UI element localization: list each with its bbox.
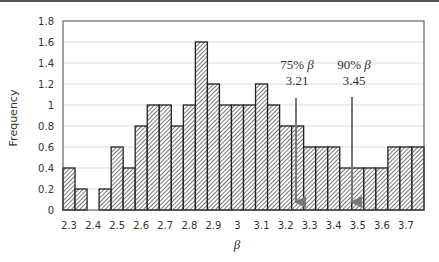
histogram-chart: 00.20.40.60.811.21.41.61.8 2.32.42.52.62…	[0, 0, 439, 262]
x-tick-label: 3.5	[350, 220, 366, 231]
histogram-bar	[244, 105, 256, 210]
histogram-bar	[256, 84, 268, 210]
histogram-bar	[207, 84, 219, 210]
x-tick-label: 3.6	[374, 220, 390, 231]
histogram-bar	[75, 189, 87, 210]
y-tick-label: 0.2	[38, 184, 54, 195]
annotation-75-label: 75%	[280, 57, 307, 72]
histogram-bar	[280, 126, 292, 210]
y-tick-label: 0	[48, 205, 54, 216]
svg-text:90% β: 90% β	[337, 57, 371, 72]
x-axis-ticks: 2.32.42.52.62.72.82.933.13.23.33.43.53.6…	[61, 220, 414, 231]
histogram-bar	[195, 42, 207, 210]
x-tick-label: 3	[234, 220, 240, 231]
histogram-bar	[147, 105, 159, 210]
annotation-75-beta: β	[306, 57, 314, 72]
histogram-bar	[376, 168, 388, 210]
annotation-75-value: 3.21	[286, 73, 309, 88]
histogram-bar	[99, 189, 111, 210]
y-tick-label: 1.4	[38, 58, 54, 69]
histogram-bar	[63, 168, 75, 210]
y-axis-ticks: 00.20.40.60.811.21.41.61.8	[38, 16, 54, 216]
y-tick-label: 1	[48, 100, 54, 111]
histogram-bar	[328, 147, 340, 210]
y-tick-label: 0.6	[38, 142, 54, 153]
histogram-bar	[123, 168, 135, 210]
svg-text:75% β: 75% β	[280, 57, 314, 72]
x-tick-label: 3.4	[326, 220, 342, 231]
y-tick-label: 1.6	[38, 37, 54, 48]
y-tick-label: 1.8	[38, 16, 54, 27]
x-axis-title: β	[233, 237, 241, 252]
histogram-bar	[364, 168, 376, 210]
histogram-bar	[316, 147, 328, 210]
histogram-bar	[159, 105, 171, 210]
histogram-bar	[135, 126, 147, 210]
histogram-bar	[304, 147, 316, 210]
x-tick-label: 3.3	[302, 220, 318, 231]
histogram-bar	[352, 168, 364, 210]
annotation-90-beta: β	[363, 57, 371, 72]
x-tick-label: 3.2	[278, 220, 294, 231]
x-tick-label: 3.7	[398, 220, 414, 231]
y-axis-title: Frequency	[7, 89, 20, 146]
x-tick-label: 2.8	[181, 220, 197, 231]
histogram-bar	[219, 105, 231, 210]
histogram-bar	[183, 105, 195, 210]
histogram-bar	[292, 126, 304, 210]
histogram-bar	[231, 105, 243, 210]
x-tick-label: 2.3	[61, 220, 77, 231]
y-tick-label: 1.2	[38, 79, 54, 90]
annotation-90-value: 3.45	[343, 73, 366, 88]
x-tick-label: 2.4	[85, 220, 101, 231]
x-tick-label: 2.5	[109, 220, 125, 231]
x-tick-label: 3.1	[254, 220, 270, 231]
histogram-bar	[111, 147, 123, 210]
x-tick-label: 2.9	[205, 220, 221, 231]
histogram-bar	[268, 105, 280, 210]
histogram-bar	[388, 147, 400, 210]
histogram-bar	[400, 147, 412, 210]
annotation-90-label: 90%	[337, 57, 364, 72]
y-tick-label: 0.8	[38, 121, 54, 132]
y-tick-label: 0.4	[38, 163, 54, 174]
x-tick-label: 2.7	[157, 220, 173, 231]
histogram-bar	[340, 168, 352, 210]
histogram-bar	[171, 126, 183, 210]
x-tick-label: 2.6	[133, 220, 149, 231]
histogram-bar	[412, 147, 424, 210]
